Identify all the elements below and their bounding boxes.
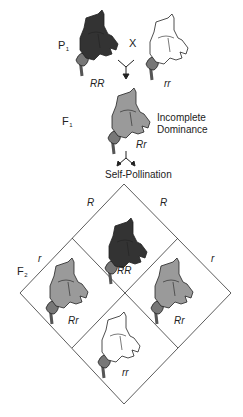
f2-label: F2	[17, 266, 28, 278]
parent-genotype-RR: RR	[90, 79, 104, 89]
cell-right-genotype: Rr	[174, 316, 185, 326]
flower-cell-right-rr	[151, 258, 193, 324]
p1-label: P1	[58, 40, 69, 52]
gamete-left-upper: R	[87, 198, 94, 208]
cell-top-genotype: RR	[117, 266, 131, 276]
parent-genotype-rr: rr	[164, 79, 171, 89]
incomplete-dominance-line1: Incomplete	[157, 113, 206, 123]
incomplete-dominance-line2: Dominance	[157, 125, 208, 135]
self-pollination-arrow-icon	[117, 151, 135, 166]
flower-rr-white-parent	[146, 14, 188, 80]
self-pollination-label: Self-Pollination	[105, 170, 172, 180]
cell-left-genotype: Rr	[68, 316, 79, 326]
f1-genotype: Rr	[136, 140, 147, 150]
flower-cell-left-rr	[46, 258, 88, 324]
f1-label: F1	[62, 116, 73, 128]
cross-arrow-icon	[118, 60, 134, 79]
gamete-right-upper: R	[160, 198, 167, 208]
diagram-canvas	[0, 0, 243, 417]
gamete-right-lower: r	[211, 254, 214, 264]
cross-symbol: X	[129, 38, 136, 49]
flower-cell-bottom-rr	[98, 312, 140, 378]
flower-rr-dark-parent	[76, 10, 118, 76]
cell-bottom-genotype: rr	[122, 368, 129, 378]
gamete-left-lower: r	[38, 254, 41, 264]
